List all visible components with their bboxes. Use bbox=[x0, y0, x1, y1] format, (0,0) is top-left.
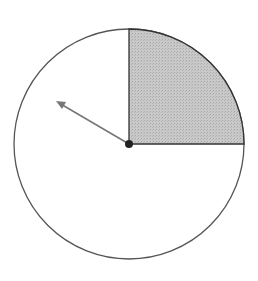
spinner-diagram bbox=[0, 0, 258, 281]
center-dot bbox=[125, 140, 133, 148]
shaded-sector bbox=[129, 29, 244, 144]
